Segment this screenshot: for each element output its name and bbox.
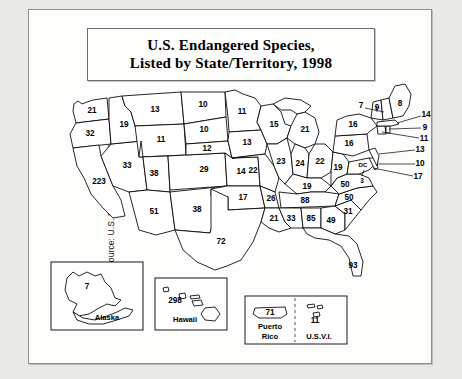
value-mn: 11 (238, 107, 247, 116)
value-ga: 49 (326, 216, 336, 225)
value-ct: 11 (420, 134, 429, 143)
value-tn: 88 (300, 196, 310, 205)
value-mt: 13 (150, 105, 160, 114)
leader-ct (382, 132, 419, 138)
value-al: 85 (306, 214, 316, 223)
value-nc: 50 (344, 193, 354, 202)
leader-ma (397, 116, 421, 123)
hi-kauai[interactable] (163, 287, 169, 292)
value-wi: 15 (269, 120, 279, 129)
label-usvi: U.S.V.I. (306, 332, 331, 341)
value-sd: 10 (199, 125, 209, 134)
value-nm: 38 (192, 205, 202, 214)
figure-frame: Source: U.S. Fish and Wildlife Service. … (28, 9, 432, 364)
value-co: 29 (199, 165, 209, 174)
value-va: 50 (340, 180, 350, 189)
inset-territories: 71 Puerto Rico 11 U.S.V.I. (245, 296, 347, 344)
inset-alaska: 7 Alaska (51, 262, 143, 330)
value-id: 19 (119, 120, 129, 129)
territory-vi-b[interactable] (317, 305, 323, 309)
value-wv: 19 (333, 163, 343, 172)
state-co[interactable] (168, 153, 227, 190)
leader-ri (389, 128, 421, 129)
hi-molokai[interactable] (190, 295, 200, 299)
leader-nj (379, 150, 415, 154)
value-ca: 223 (92, 177, 106, 186)
value-ky: 19 (302, 182, 312, 191)
value-vt: 9 (375, 103, 380, 112)
value-ms: 33 (286, 214, 296, 223)
chart-title-box: U.S. Endangered Species, Listed by State… (87, 28, 375, 81)
value-pr: 71 (265, 308, 275, 317)
value-md: 17 (413, 172, 423, 181)
map-canvas: 21 32 223 33 19 13 11 38 29 51 38 10 10 … (29, 82, 431, 364)
label-alaska: Alaska (95, 313, 120, 322)
value-ut: 38 (149, 169, 159, 178)
value-ia: 13 (242, 138, 252, 147)
label-pr-line2: Rico (262, 332, 279, 341)
value-ny: 16 (348, 120, 358, 129)
state-ct[interactable] (377, 126, 386, 134)
value-ri: 9 (423, 123, 428, 132)
value-tx: 72 (216, 237, 226, 246)
inset-hawaii: 298 Hawaii (155, 278, 227, 330)
value-sc: 31 (343, 207, 353, 216)
state-ma[interactable] (377, 120, 399, 126)
value-la: 21 (269, 214, 279, 223)
value-in: 24 (295, 159, 305, 168)
territory-vi-a[interactable] (307, 304, 315, 308)
value-dc: 3 (360, 177, 364, 184)
label-hawaii: Hawaii (173, 315, 197, 324)
value-me: 8 (398, 99, 403, 108)
value-ak: 7 (85, 282, 90, 291)
value-ma: 14 (421, 110, 431, 119)
value-az: 51 (149, 207, 159, 216)
value-fl: 93 (348, 261, 358, 270)
value-ar: 26 (266, 194, 276, 203)
value-ok: 17 (238, 193, 248, 202)
page-title: U.S. Endangered Species, (94, 36, 368, 54)
value-de: 10 (415, 159, 425, 168)
value-nh: 7 (359, 101, 364, 110)
value-pa: 16 (344, 139, 354, 148)
label-dc: DC (359, 161, 368, 168)
state-ri[interactable] (386, 126, 390, 133)
value-wa: 21 (87, 106, 97, 115)
leader-md (373, 168, 413, 176)
value-vi: 11 (311, 316, 320, 325)
value-wy: 11 (157, 135, 166, 144)
value-oh: 22 (315, 157, 325, 166)
hi-maui[interactable] (192, 300, 203, 306)
value-nj: 13 (415, 145, 425, 154)
value-hi: 298 (168, 296, 182, 305)
page-subtitle: Listed by State/Territory, 1998 (94, 54, 368, 72)
value-mi: 21 (300, 125, 310, 134)
value-il: 23 (276, 157, 286, 166)
value-ks: 14 (236, 167, 246, 176)
value-nd: 10 (198, 100, 208, 109)
label-pr-line1: Puerto (258, 322, 282, 331)
value-nv: 33 (122, 161, 132, 170)
value-or: 32 (85, 129, 95, 138)
value-ne: 12 (202, 144, 212, 153)
value-mo: 22 (248, 166, 258, 175)
